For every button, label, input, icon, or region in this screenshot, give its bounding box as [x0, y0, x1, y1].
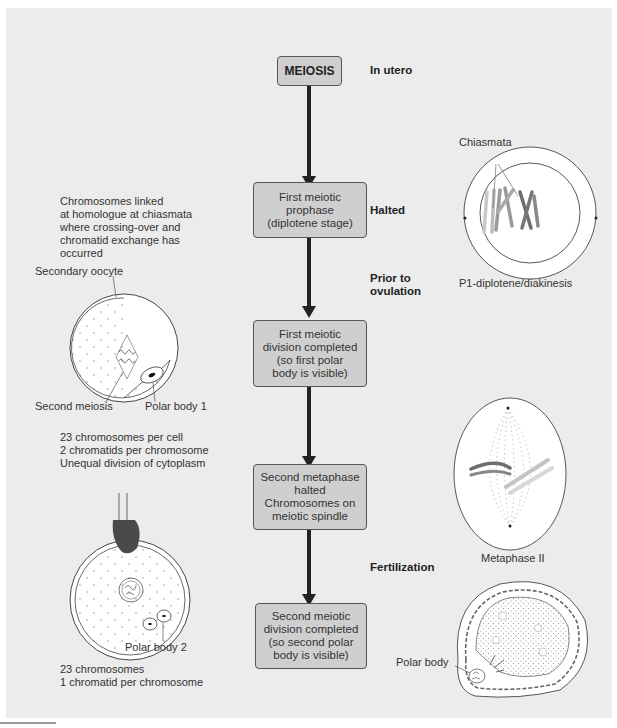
fertilization-follicle-illustration — [455, 582, 588, 698]
label-chiasmata: Chiasmata — [459, 136, 512, 149]
metaphase-spindle-illustration — [454, 398, 566, 550]
stage-prior-to-ovulation: Prior to ovulation — [370, 272, 421, 298]
label-second-meiosis: Second meiosis — [35, 400, 113, 413]
first-division-note: 23 chromosomes per cell 2 chromatids per… — [60, 431, 209, 470]
second-division-note: 23 chromosomes 1 chromatid per chromosom… — [60, 663, 203, 689]
label-polar-body-2: Polar body 2 — [125, 641, 187, 654]
box-first-meiotic-division: First meiotic division completed (so fir… — [253, 320, 367, 387]
diplotene-cell-illustration — [464, 147, 598, 279]
box-second-metaphase: Second metaphase halted Chromosomes on m… — [253, 464, 367, 530]
caption-diplotene-diakinesis: P1-diplotene/diakinesis — [459, 277, 572, 290]
box-first-meiotic-prophase: First meiotic prophase (diplotene stage) — [253, 182, 367, 238]
stage-halted: Halted — [370, 204, 405, 217]
fertilized-oocyte-illustration — [70, 493, 190, 660]
box-meiosis: MEIOSIS — [277, 56, 342, 86]
label-secondary-oocyte: Secondary oocyte — [35, 265, 123, 278]
stage-fertilization: Fertilization — [370, 561, 435, 574]
label-polar-body-1: Polar body 1 — [145, 400, 207, 413]
secondary-oocyte-illustration — [70, 276, 178, 402]
label-polar-body: Polar body — [396, 656, 449, 669]
box-second-meiotic-division: Second meiotic division completed (so se… — [255, 603, 367, 669]
stage-in-utero: In utero — [370, 64, 412, 77]
chiasmata-note: Chromosomes linked at homologue at chias… — [60, 195, 192, 260]
caption-metaphase-ii: Metaphase II — [481, 552, 545, 565]
